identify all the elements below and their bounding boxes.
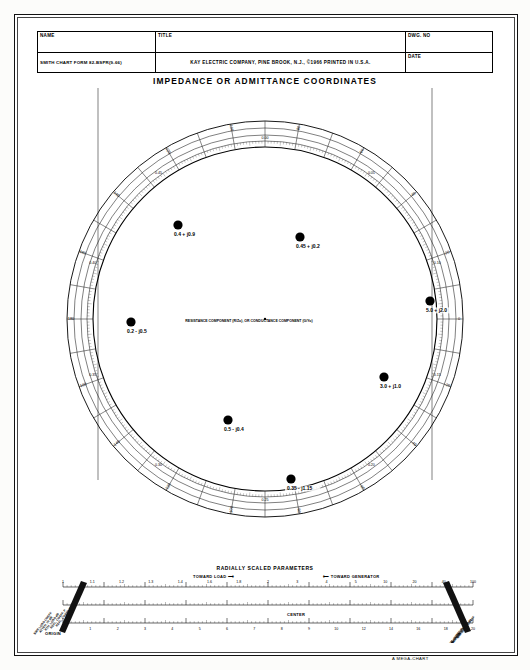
smith-chart-graphic: 020406080100120140160180-160-140-120-100… [40,88,490,550]
ruler-tick-label: 1.3 [148,580,153,584]
smith-chart-page: NAME TITLE DWG. NO SMITH CHART FORM 82-B… [0,0,530,670]
rsp-rulers: 012345678910121416182011.11.21.31.41.61.… [33,565,497,643]
angle-tick-label: -160 [78,381,88,389]
data-point-label: 3.0 + j1.0 [380,383,401,389]
wavelength-tick-label: 0.20 [368,463,375,467]
ruler-tick-label: 1.2 [119,580,124,584]
data-point-marker [379,372,388,381]
ruler-tick-label: 14 [389,627,393,631]
ruler-tick-label: 8 [281,627,283,631]
ruler-tick-label: 5 [355,580,357,584]
dwg-no-label: DWG. NO [408,33,430,38]
data-point-marker [173,220,182,229]
wavelength-tick-label: 0.40 [89,261,96,265]
title-block-row-bottom: SMITH CHART FORM 82-BSPR(9-66) KAY ELECT… [38,53,492,73]
brand-label: A MEGA-CHART [392,656,429,661]
angle-tick-label: -140 [111,438,121,447]
ruler-tick-label: 1.6 [207,580,212,584]
wavelength-tick-label: 0.00 [262,136,269,140]
date-label: DATE [408,54,421,59]
ruler-tick-label: 1.8 [236,580,241,584]
data-point-marker [295,232,304,241]
data-point-marker [425,296,434,305]
resistance-axis-label: RESISTANCE COMPONENT (R/Zo), OR CONDUCTA… [185,319,312,323]
smith-chart-svg[interactable]: 020406080100120140160180-160-140-120-100… [40,88,490,550]
angle-tick-label: -120 [163,481,172,491]
radially-scaled-parameters: RADIALLY SCALED PARAMETERS TOWARD LOAD ⟶… [33,565,497,643]
wavelength-tick-label: 0.35 [89,373,96,377]
ruler-tick-label: 1.1 [90,580,95,584]
angle-tick-label: 0 [458,316,461,321]
angle-tick-label: -100 [228,505,234,515]
data-point-marker [286,474,295,483]
ruler-tick-label: 1.4 [178,580,183,584]
ruler-tick-label: 2 [267,580,269,584]
ruler-tick-label: 20 [412,580,416,584]
ruler-tick-label: 3 [296,580,298,584]
wavelength-tick-label: 0.10 [434,261,441,265]
ruler-tick-label: 6 [226,627,228,631]
data-point-label: 0.5 - j0.4 [224,426,244,432]
ruler-tick-label: 20 [471,627,475,631]
data-point-label: 0.45 + j0.2 [296,243,320,249]
angle-tick-label: 180 [68,316,75,321]
name-label: NAME [40,33,55,38]
ruler-tick-label: 7 [253,627,255,631]
form-id-cell: SMITH CHART FORM 82-BSPR(9-66) [38,53,156,73]
page-title: IMPEDANCE OR ADMITTANCE COORDINATES [0,76,530,86]
angle-tick-label: 160 [79,249,88,256]
wavelength-tick-label: 0.45 [155,171,162,175]
wavelength-tick-label: 0.30 [155,463,162,467]
publisher-text: KAY ELECTRIC COMPANY, PINE BROOK, N.J., … [156,53,405,73]
ruler-tick-label: 12 [362,627,366,631]
ruler-tick-label: 18 [444,627,448,631]
data-point-label: 5.0 + j2.0 [426,307,447,313]
title-label: TITLE [158,33,172,38]
data-point[interactable]: 5.0 + j2.0 [424,296,454,313]
angle-tick-label: 80 [295,124,301,130]
dwg-no-field[interactable]: DWG. NO [406,32,492,52]
ruler-tick-label: 10 [383,580,387,584]
data-point-label: 0.4 + j0.9 [174,231,195,237]
title-block-row-top: NAME TITLE DWG. NO [38,32,492,53]
angle-tick-label: 120 [165,147,173,156]
ruler-tick-label: 5 [199,627,201,631]
data-point-marker [223,415,232,424]
ruler-tick-label: 4 [326,580,328,584]
ruler-tick-label: 16 [416,627,420,631]
chart-center [264,318,266,320]
name-field[interactable]: NAME [38,32,156,52]
ruler-tick-label: 1 [62,580,64,584]
title-field[interactable]: TITLE [156,32,406,52]
ruler-tick-label: 2 [117,627,119,631]
title-block: NAME TITLE DWG. NO SMITH CHART FORM 82-B… [37,31,493,73]
ruler-tick-label: 1 [89,627,91,631]
wavelength-tick-label: 0.05 [368,171,375,175]
angle-tick-label: 20 [444,249,451,255]
wavelength-tick-label: 0.15 [434,373,441,377]
data-point-label: 0.2 - j0.5 [127,328,147,334]
ruler-tick-label: 3 [144,627,146,631]
data-point-label: 0.35 - j1.15 [287,485,313,491]
ruler-tick-label: 10 [334,627,338,631]
ruler-tick-label: 9 [308,627,310,631]
date-field[interactable]: DATE [406,53,492,73]
form-id-text: SMITH CHART FORM 82-BSPR(9-66) [38,53,155,73]
ruler-tick-label: 4 [171,627,173,631]
wavelength-tick-label: 0.25 [262,498,269,502]
ruler-tick-label: 100 [470,580,476,584]
data-point-marker [126,317,135,326]
publisher-cell: KAY ELECTRIC COMPANY, PINE BROOK, N.J., … [156,53,406,73]
